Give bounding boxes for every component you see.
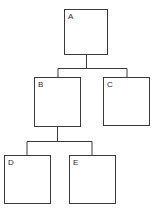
- node-label-a: A: [68, 12, 73, 21]
- diagram-svg: [0, 0, 160, 214]
- node-label-c: C: [107, 80, 113, 89]
- node-label-b: B: [38, 80, 43, 89]
- node-label-e: E: [73, 158, 78, 167]
- node-box-group: [5, 10, 150, 204]
- diagram-canvas: A B C D E: [0, 0, 160, 214]
- node-label-d: D: [8, 158, 14, 167]
